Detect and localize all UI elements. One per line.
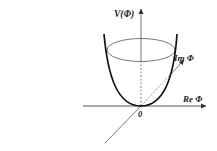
origin-label: 0 — [138, 109, 143, 119]
potential-diagram: V(Φ) Im Φ Re Φ 0 — [0, 0, 217, 151]
v-axis-label: V(Φ) — [114, 9, 134, 20]
potential-curve — [104, 34, 177, 106]
im-axis-label: Im Φ — [173, 53, 194, 63]
re-axis-label: Re Φ — [182, 94, 202, 104]
im-axis-lower — [105, 106, 141, 143]
